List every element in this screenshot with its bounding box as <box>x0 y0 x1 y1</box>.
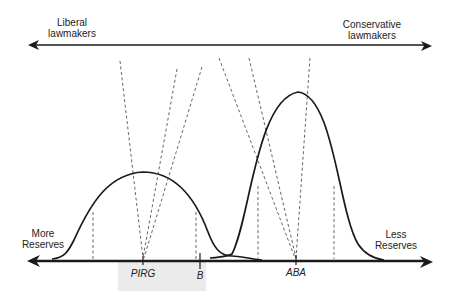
conservative-lawmakers-label: Conservative lawmakers <box>332 19 412 41</box>
less-reserves-line1: Less <box>371 229 421 240</box>
right-distribution-curve <box>210 92 384 260</box>
pirg-label: PIRG <box>123 268 163 279</box>
conservative-label-line2: lawmakers <box>332 30 412 41</box>
less-reserves-label: Less Reserves <box>371 229 421 251</box>
liberal-label-line1: Liberal <box>42 17 102 28</box>
liberal-lawmakers-label: Liberal lawmakers <box>42 17 102 39</box>
liberal-label-line2: lawmakers <box>42 28 102 39</box>
diagram-canvas <box>0 0 450 301</box>
less-reserves-line2: Reserves <box>371 240 421 251</box>
top-axis-arrow <box>28 40 432 51</box>
b-label: B <box>191 270 209 281</box>
more-reserves-label: More Reserves <box>18 228 68 250</box>
pirg-projection-lines <box>120 61 202 258</box>
conservative-label-line1: Conservative <box>332 19 412 30</box>
aba-label: ABA <box>276 267 316 278</box>
more-reserves-line2: Reserves <box>18 239 68 250</box>
aba-projection-lines <box>219 58 310 258</box>
more-reserves-line1: More <box>18 228 68 239</box>
vertical-dashed-lines <box>93 186 334 259</box>
